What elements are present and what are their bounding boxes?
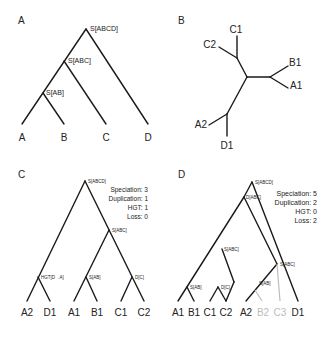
leaf-label: B1 [289,57,302,68]
panel-a-label: A [18,15,25,26]
leaf-label: C2 [220,307,233,318]
speciation-count: Speciation: 3 [110,186,148,194]
duplication-count: Duplication: 1 [109,195,149,203]
leaf-label: D1 [44,307,57,318]
leaf-label: A [19,132,26,143]
branch [270,66,288,77]
node-label: D[C] [221,285,230,290]
node-label: S[ABCD] [90,25,118,33]
leaf-label: B [61,132,68,143]
loss-count: Loss: 0 [127,213,148,220]
branch [222,249,234,282]
branch [27,181,85,301]
branch [210,287,218,301]
leaf-label: D1 [221,140,234,151]
leaf-label: D [144,132,151,143]
leaf-label: C [102,132,109,143]
branch [237,58,247,77]
leaf-label: C1 [115,307,128,318]
lost-leaf-label: B2 [257,307,270,318]
node-label: S[ABC] [224,247,239,252]
phylogenetic-figure: A S[ABCD] S[ABC] S[AB] A B C D B C1 C2 B… [0,0,335,337]
node-label: HGT[D→A] [41,275,64,280]
event-counts: Speciation: 3 Duplication: 1 HGT: 1 Loss… [109,186,149,220]
branch [38,277,50,301]
panel-b-unrooted-gene-tree: B C1 C2 B1 A1 A2 D1 [178,15,303,151]
branch [86,29,148,124]
leaf-label: B1 [188,307,201,318]
leaf-label: A2 [240,307,253,318]
panel-a-species-tree: A S[ABCD] S[ABC] S[AB] A B C D [18,15,152,143]
branch [209,114,227,125]
node-label: S[AB] [190,285,202,290]
lost-leaf-label: C3 [274,307,287,318]
panel-c-reconciliation-hgt: C S[ABCD] S[ABC] HGT[D→A] S[AB] D[C] Spe… [18,169,151,318]
leaf-label: C1 [204,307,217,318]
leaf-label: C2 [138,307,151,318]
hgt-count: HGT: 0 [295,208,317,215]
leaf-label: A1 [68,307,81,318]
leaf-label: C2 [203,39,216,50]
panel-c-label: C [18,169,25,180]
panel-d-label: D [178,169,185,180]
loss-count: Loss: 2 [294,217,317,224]
node-label: S[ABC] [280,262,295,267]
node-label: D[C] [135,275,144,280]
leaf-label: A2 [21,307,34,318]
node-label: S[ABCD] [88,179,106,184]
duplication-count: Duplication: 2 [275,199,318,207]
node-label: S[ABC] [68,57,91,65]
branch [121,277,132,301]
panel-b-label: B [178,15,185,26]
branch [43,93,64,124]
node-label: S[AB] [89,275,101,280]
node-label: S[ABCD] [255,180,273,185]
leaf-label: C1 [230,24,243,35]
node-label: S[AB] [259,281,271,286]
leaf-label: A2 [195,119,208,130]
hgt-count: HGT: 1 [128,204,149,211]
branch [86,277,97,301]
event-counts: Speciation: 5 Duplication: 2 HGT: 0 Loss… [275,190,318,224]
leaf-label: B1 [91,307,104,318]
node-label: S[ABC] [112,228,127,233]
branch [244,197,277,264]
speciation-count: Speciation: 5 [277,190,318,198]
leaf-label: A1 [172,307,185,318]
branch [270,77,288,88]
lost-branch [255,290,262,301]
lost-branch [277,264,280,301]
node-label: D[ABC] [246,195,261,200]
node-label: S[AB] [46,89,64,97]
branch [227,77,247,114]
leaf-label: D1 [292,307,305,318]
panel-d-reconciliation-duplication-loss: D S[ABCD] D[ABC] S[ABC] S[AB] D[C] S[ABC [172,169,317,318]
branch [64,61,106,124]
branch [219,47,237,58]
leaf-label: A1 [290,80,303,91]
